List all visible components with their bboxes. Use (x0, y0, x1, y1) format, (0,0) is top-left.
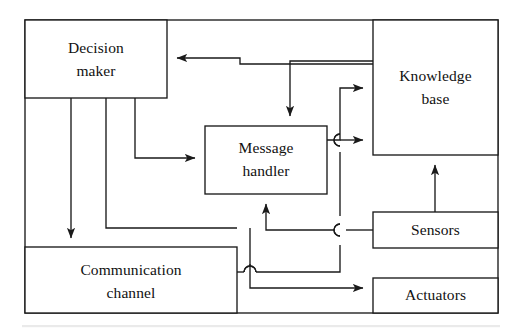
message-handler-box[interactable] (205, 126, 327, 194)
communication-channel-label-line2: channel (107, 284, 156, 301)
diagram-canvas: Decision maker Knowledge base Message ha… (0, 0, 520, 330)
decision-maker-box[interactable] (25, 20, 167, 98)
communication-channel-label-line1: Communication (80, 261, 181, 278)
edge-decision-maker-to-message-handler (135, 98, 195, 158)
node-communication-channel[interactable]: Communication channel (25, 247, 237, 313)
scan-artifact-band (22, 325, 500, 327)
message-handler-label-line1: Message (239, 139, 294, 156)
knowledge-base-label-line2: base (422, 90, 450, 107)
edge-sensors-to-message-handler-b (266, 204, 334, 230)
decision-maker-label-line2: maker (76, 62, 116, 79)
line-hop-sensors-rail-overlay (334, 224, 340, 236)
node-sensors[interactable]: Sensors (373, 212, 498, 248)
edge-message-handler-to-kb-upper (327, 88, 363, 140)
node-knowledge-base[interactable]: Knowledge base (373, 20, 498, 155)
sensors-label: Sensors (411, 221, 460, 238)
block-diagram-figure: Decision maker Knowledge base Message ha… (0, 0, 520, 330)
node-decision-maker[interactable]: Decision maker (25, 20, 167, 98)
decision-maker-label-line1: Decision (68, 39, 124, 56)
knowledge-base-label-line1: Knowledge (399, 67, 471, 84)
communication-channel-box[interactable] (25, 247, 237, 313)
actuators-label: Actuators (405, 286, 466, 303)
message-handler-label-line2: handler (242, 162, 290, 179)
edge-message-handler-to-actuators (250, 264, 363, 288)
node-message-handler[interactable]: Message handler (205, 126, 327, 194)
edge-communication-channel-to-message-handler-2 (256, 245, 340, 272)
node-actuators[interactable]: Actuators (373, 278, 498, 313)
knowledge-base-box[interactable] (373, 20, 498, 155)
